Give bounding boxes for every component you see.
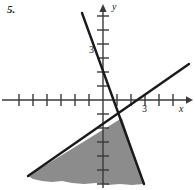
x-axis-label: x	[179, 104, 183, 114]
y-axis-tick-label-3: 3	[89, 45, 94, 55]
x-axis-tick-label-3: 3	[142, 104, 147, 114]
coordinate-plane-svg	[0, 0, 195, 190]
x-axis	[2, 96, 193, 104]
shaded-solution-region	[28, 118, 144, 185]
y-axis-label: y	[112, 2, 116, 12]
problem-number-label: 5.	[7, 4, 15, 15]
graph-figure: 5. y x 3 3	[0, 0, 195, 190]
